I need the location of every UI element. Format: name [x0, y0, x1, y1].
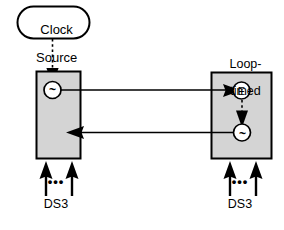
clock-source-line2: Source [36, 50, 77, 65]
clock-extractor-glyph: E [233, 83, 250, 99]
left-oscillator-glyph: ~ [44, 82, 61, 98]
left-tributary-ellipsis: ••• [40, 175, 72, 189]
clock-source-line1: Clock [40, 22, 73, 37]
right-tributary-ellipsis: ••• [224, 175, 256, 189]
right-tributary-label: DS3 [216, 198, 264, 212]
loop-timed-line1: Loop- [229, 57, 261, 71]
left-tributary-label: DS3 [32, 198, 80, 212]
right-oscillator-glyph: ~ [234, 126, 251, 142]
clock-source-label: Clock Source [20, 9, 86, 65]
